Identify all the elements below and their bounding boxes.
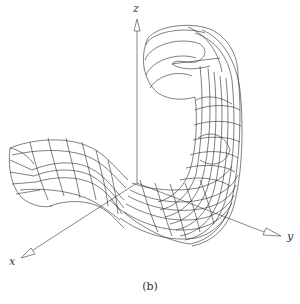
z-axis-label: z bbox=[133, 2, 139, 15]
wireframe-plot bbox=[0, 0, 300, 304]
y-axis-label: y bbox=[287, 230, 293, 243]
z-axis-arrow-icon bbox=[134, 19, 140, 31]
figure-caption: (b) bbox=[0, 280, 300, 293]
wireframe-figure: z x y (b) bbox=[0, 0, 300, 304]
x-axis-arrow-icon bbox=[21, 248, 35, 258]
x-axis bbox=[30, 183, 137, 252]
wireframe-surface bbox=[9, 25, 242, 246]
y-axis bbox=[137, 183, 264, 232]
y-axis-arrow-icon bbox=[263, 228, 281, 236]
x-axis-label: x bbox=[9, 255, 15, 268]
